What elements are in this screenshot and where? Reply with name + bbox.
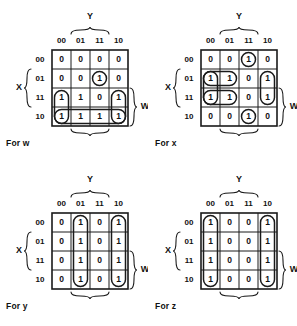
kmap-cell-r0-c3: 1 bbox=[265, 217, 270, 227]
row-label-00: 00 bbox=[185, 218, 194, 227]
kmap-cell-r0-c2: 0 bbox=[246, 217, 251, 227]
kmap-cell-r3-c2: 1 bbox=[246, 111, 251, 121]
kmap-cell-r3-c3: 1 bbox=[116, 274, 121, 284]
kmap-cell-r2-c2: 0 bbox=[97, 92, 102, 102]
kmap-cell-r0-c3: 1 bbox=[116, 217, 121, 227]
brace-z bbox=[71, 292, 109, 299]
row-label-10: 10 bbox=[36, 112, 45, 121]
row-label-11: 11 bbox=[185, 93, 194, 102]
kmap-cell-r1-c3: 1 bbox=[265, 236, 270, 246]
kmap-caption-x: For x bbox=[155, 138, 177, 148]
column-label-11: 11 bbox=[95, 36, 104, 45]
kmap-panel-x: 00011110000111100010110111010010YZXW For… bbox=[149, 0, 297, 163]
kmap-cell-r0-c0: 0 bbox=[59, 54, 64, 64]
brace-w bbox=[130, 251, 137, 289]
column-label-00: 00 bbox=[206, 199, 215, 208]
kmap-cell-r2-c0: 1 bbox=[208, 255, 213, 265]
brace-y bbox=[220, 190, 258, 197]
kmap-cell-r1-c1: 0 bbox=[78, 73, 83, 83]
variable-label-x: X bbox=[16, 82, 22, 92]
kmap-cell-r2-c1: 1 bbox=[78, 255, 83, 265]
kmap-cell-r0-c3: 0 bbox=[265, 54, 270, 64]
kmap-panel-y: 00011110000111100101010101010101YZXW For… bbox=[0, 163, 148, 326]
kmap-cell-r3-c0: 0 bbox=[208, 111, 213, 121]
kmap-diagram-x: 00011110000111100010110111010010YZXW bbox=[149, 0, 297, 136]
kmap-cell-r2-c0: 0 bbox=[59, 255, 64, 265]
kmap-cell-r2-c1: 0 bbox=[227, 255, 232, 265]
brace-y bbox=[220, 27, 258, 34]
kmap-cell-r3-c0: 0 bbox=[59, 274, 64, 284]
kmap-cell-r2-c3: 1 bbox=[265, 92, 270, 102]
kmap-cell-r2-c3: 1 bbox=[265, 255, 270, 265]
kmap-cell-r3-c0: 1 bbox=[59, 111, 64, 121]
kmap-panel-z: 00011110000111101001100110011001YZXW For… bbox=[149, 163, 297, 326]
kmap-cell-r1-c2: 0 bbox=[246, 236, 251, 246]
kmap-cell-r3-c3: 0 bbox=[265, 111, 270, 121]
kmap-cell-r0-c2: 0 bbox=[97, 217, 102, 227]
kmap-diagram-w: 00011110000111100000001011011111YZXW bbox=[0, 0, 148, 136]
kmap-caption-w: For w bbox=[6, 138, 30, 148]
brace-x bbox=[24, 232, 31, 270]
brace-w bbox=[279, 251, 286, 289]
row-label-00: 00 bbox=[36, 218, 45, 227]
kmap-cell-r1-c0: 0 bbox=[59, 236, 64, 246]
column-label-00: 00 bbox=[206, 36, 215, 45]
row-label-10: 10 bbox=[185, 112, 194, 121]
row-label-10: 10 bbox=[36, 275, 45, 284]
column-label-01: 01 bbox=[225, 199, 234, 208]
row-label-01: 01 bbox=[185, 74, 194, 83]
kmap-cell-r2-c1: 1 bbox=[227, 92, 232, 102]
kmap-cell-r1-c1: 1 bbox=[78, 236, 83, 246]
kmap-cell-r1-c2: 0 bbox=[246, 73, 251, 83]
kmap-diagram-y: 00011110000111100101010101010101YZXW bbox=[0, 163, 148, 299]
variable-label-w: W bbox=[141, 264, 148, 274]
column-label-10: 10 bbox=[263, 36, 272, 45]
kmap-cell-r0-c2: 1 bbox=[246, 54, 251, 64]
kmap-cell-r2-c3: 1 bbox=[116, 255, 121, 265]
variable-label-w: W bbox=[290, 264, 297, 274]
kmap-cell-r0-c3: 0 bbox=[116, 54, 121, 64]
kmap-cell-r1-c0: 1 bbox=[208, 73, 213, 83]
kmap-cell-r1-c2: 1 bbox=[97, 73, 102, 83]
row-label-01: 01 bbox=[185, 237, 194, 246]
variable-label-x: X bbox=[16, 245, 22, 255]
kmap-caption-z: For z bbox=[155, 301, 176, 311]
kmap-cell-r0-c1: 0 bbox=[227, 217, 232, 227]
variable-label-y: Y bbox=[236, 11, 242, 21]
row-label-11: 11 bbox=[185, 256, 194, 265]
kmap-caption-y: For y bbox=[6, 301, 28, 311]
kmap-cell-r2-c0: 1 bbox=[59, 92, 64, 102]
kmap-cell-r2-c0: 1 bbox=[208, 92, 213, 102]
kmap-cell-r3-c2: 1 bbox=[97, 111, 102, 121]
variable-label-w: W bbox=[290, 101, 297, 111]
column-label-10: 10 bbox=[114, 199, 123, 208]
kmap-figure-sheet: 00011110000111100000001011011111YZXW For… bbox=[0, 0, 297, 326]
brace-x bbox=[24, 69, 31, 107]
brace-y bbox=[71, 190, 109, 197]
kmap-cell-r3-c2: 0 bbox=[246, 274, 251, 284]
kmap-panel-w: 00011110000111100000001011011111YZXW For… bbox=[0, 0, 148, 163]
brace-x bbox=[173, 69, 180, 107]
kmap-cell-r2-c3: 1 bbox=[116, 92, 121, 102]
kmap-cell-r3-c1: 0 bbox=[227, 111, 232, 121]
kmap-cell-r2-c2: 0 bbox=[246, 92, 251, 102]
column-label-11: 11 bbox=[244, 199, 253, 208]
variable-label-y: Y bbox=[87, 11, 93, 21]
kmap-cell-r2-c2: 0 bbox=[97, 255, 102, 265]
brace-w bbox=[130, 88, 137, 126]
kmap-cell-r0-c0: 1 bbox=[208, 217, 213, 227]
column-label-01: 01 bbox=[76, 199, 85, 208]
kmap-cell-r1-c3: 1 bbox=[116, 236, 121, 246]
row-label-11: 11 bbox=[36, 93, 45, 102]
column-label-11: 11 bbox=[95, 199, 104, 208]
kmap-cell-r3-c1: 0 bbox=[227, 274, 232, 284]
row-label-11: 11 bbox=[36, 256, 45, 265]
row-label-01: 01 bbox=[36, 237, 45, 246]
kmap-cell-r1-c0: 0 bbox=[59, 73, 64, 83]
brace-z bbox=[220, 129, 258, 136]
brace-y bbox=[71, 27, 109, 34]
kmap-cell-r3-c1: 1 bbox=[78, 111, 83, 121]
kmap-cell-r1-c0: 1 bbox=[208, 236, 213, 246]
brace-x bbox=[173, 232, 180, 270]
kmap-cell-r3-c3: 1 bbox=[265, 274, 270, 284]
